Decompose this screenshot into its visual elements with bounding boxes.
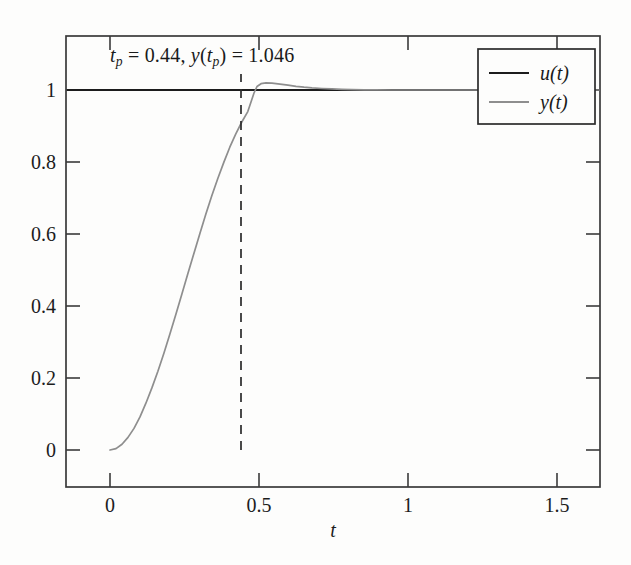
annotation-eq-1: = 0.44, bbox=[123, 44, 191, 66]
annotation-eq-2: = 1.046 bbox=[226, 44, 294, 66]
peak-annotation: tp = 0.44, y(tp) = 1.046 bbox=[110, 44, 294, 70]
x-tick-label-2: 1 bbox=[403, 494, 413, 517]
annotation-y-symbol: y bbox=[191, 44, 200, 66]
annotation-t-subscript: p bbox=[116, 54, 123, 69]
plot-area bbox=[0, 0, 631, 565]
x-tick-label-3: 1.5 bbox=[545, 494, 570, 517]
annotation-open-paren: ( bbox=[200, 44, 207, 66]
y-tick-label-5: 1 bbox=[4, 79, 56, 102]
annotation-t-subscript-2: p bbox=[213, 54, 220, 69]
x-tick-label-1: 0.5 bbox=[247, 494, 272, 517]
y-tick-label-1: 0.2 bbox=[4, 367, 56, 390]
legend-label-u: u(t) bbox=[540, 62, 569, 85]
x-axis-title: t bbox=[330, 519, 336, 542]
figure-canvas: 0 0.2 0.4 0.6 0.8 1 0 0.5 1 1.5 t tp = 0… bbox=[0, 0, 631, 565]
y-tick-label-2: 0.4 bbox=[4, 295, 56, 318]
y-tick-marks bbox=[66, 90, 600, 450]
legend-box bbox=[478, 49, 595, 124]
series-line-y bbox=[110, 83, 599, 450]
y-tick-label-4: 0.8 bbox=[4, 151, 56, 174]
legend-label-y: y(t) bbox=[540, 91, 568, 114]
x-tick-label-0: 0 bbox=[105, 494, 115, 517]
y-tick-label-0: 0 bbox=[4, 439, 56, 462]
y-tick-label-3: 0.6 bbox=[4, 223, 56, 246]
